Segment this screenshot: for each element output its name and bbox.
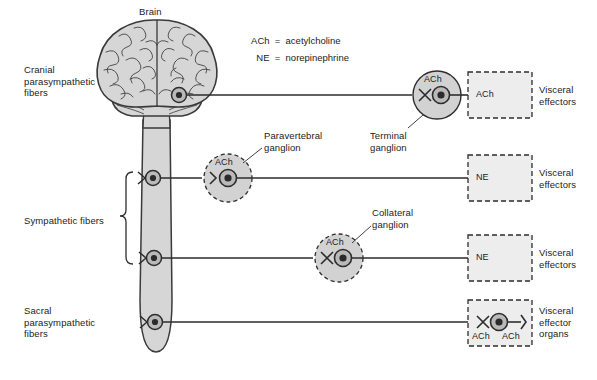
cell-body-terminal-ganglion bbox=[433, 87, 450, 104]
brain-label: Brain bbox=[139, 6, 162, 18]
legend-equals-ne: = bbox=[270, 52, 286, 63]
transmitter-sacral-pre: ACh bbox=[472, 331, 490, 343]
transmitter-sacral-post: ACh bbox=[502, 331, 520, 343]
brain-and-spinal-cord bbox=[97, 20, 217, 352]
leader-collateral bbox=[352, 226, 371, 243]
leader-terminal-ganglion bbox=[408, 115, 423, 128]
label-effector-sym-upper: Visceral effectors bbox=[539, 167, 576, 190]
transmitter-paravertebral-ganglion: ACh bbox=[215, 157, 233, 169]
transmitter-collateral-ganglion: ACh bbox=[326, 237, 344, 249]
label-paravertebral-ganglion: Paravertebral ganglion bbox=[264, 130, 322, 153]
sympathetic-bracket bbox=[120, 172, 133, 264]
label-cranial-parasympathetic-fibers: Cranial parasympathetic fibers bbox=[24, 64, 95, 99]
pathway-sympathetic-upper bbox=[138, 148, 532, 202]
legend-definition-ne: norepinephrine bbox=[286, 52, 349, 63]
cell-body-paravertebral bbox=[220, 170, 237, 187]
cell-body-sym-upper bbox=[146, 171, 161, 186]
transmitter-effector-cranial: ACh bbox=[476, 89, 494, 101]
cell-body-sym-lower bbox=[147, 251, 162, 266]
label-collateral-ganglion: Collateral ganglion bbox=[372, 207, 413, 230]
cell-body-sacral bbox=[148, 315, 163, 330]
cell-body-intramural bbox=[491, 314, 508, 331]
label-effector-cranial: Visceral effectors bbox=[539, 84, 576, 107]
legend-term-ne: NE bbox=[240, 52, 270, 63]
transmitter-terminal-ganglion: ACh bbox=[424, 74, 442, 86]
transmitter-effector-sym-upper: NE bbox=[476, 172, 489, 184]
label-effector-sym-lower: Visceral effectors bbox=[539, 247, 576, 270]
label-terminal-ganglion: Terminal ganglion bbox=[370, 130, 407, 153]
label-sympathetic-fibers: Sympathetic fibers bbox=[24, 215, 104, 227]
diagram-canvas: Brain ACh=acetylcholine NE=norepinephrin… bbox=[0, 0, 597, 380]
cell-body-cranial bbox=[172, 88, 187, 103]
label-effector-sacral: Visceral effector organs bbox=[539, 305, 573, 340]
transmitter-effector-sym-lower: NE bbox=[476, 252, 489, 264]
cell-body-collateral bbox=[335, 250, 352, 267]
pathway-sympathetic-lower bbox=[139, 226, 532, 282]
label-sacral-parasympathetic-fibers: Sacral parasympathetic fibers bbox=[24, 305, 95, 340]
legend-row-ne: NE=norepinephrine bbox=[229, 41, 349, 74]
leader-paravertebral bbox=[243, 148, 262, 163]
